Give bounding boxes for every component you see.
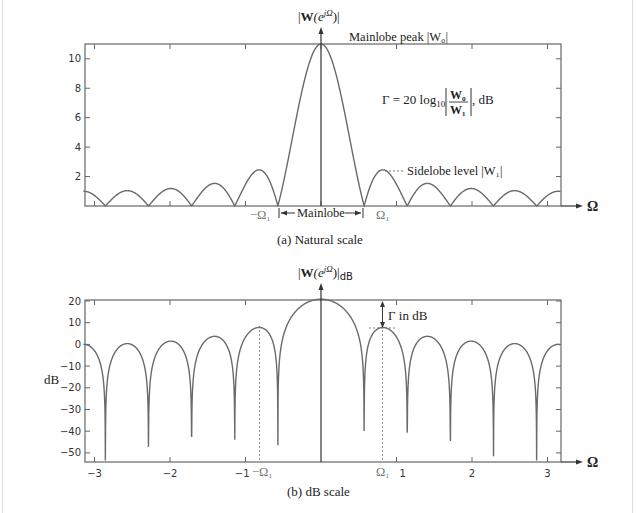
tick-label: 10 (68, 317, 81, 328)
db-axis-label: dB (44, 372, 60, 387)
tick-label: 2 (469, 468, 475, 479)
arrow-right-icon (355, 211, 361, 216)
tick-label: 10 (68, 53, 81, 64)
plot-b-ticks: 20100−10−20−30−40−50−3−2−1123 (60, 296, 561, 480)
neg-omega1-label-a: −Ω₁ (250, 208, 271, 222)
tick-label: −1 (235, 468, 250, 479)
arrow-up-icon (380, 301, 385, 307)
plot-a-frame (85, 44, 561, 206)
tick-label: 4 (75, 142, 81, 153)
mainlobe-label: Mainlobe (297, 206, 345, 220)
tick-label: 1 (400, 468, 406, 479)
arrow-up-icon (319, 27, 324, 34)
svg-text:W₀: W₀ (450, 88, 466, 102)
plot-a-curve (83, 44, 560, 206)
plot-b-frame (85, 300, 561, 462)
tick-label: −40 (60, 426, 81, 437)
plot-a-ticks: 108642 (68, 44, 561, 206)
tick-label: −20 (60, 382, 81, 393)
arrow-right-icon (576, 204, 583, 209)
arrow-right-icon (576, 460, 583, 465)
tick-label: 6 (75, 112, 81, 123)
tick-label: 3 (544, 468, 550, 479)
tick-label: −30 (60, 404, 81, 415)
neg-omega1-label-b: −Ω₁ (252, 465, 273, 479)
tick-label: 2 (75, 171, 81, 182)
sidelobe-level-label: Sidelobe level |W₁| (407, 164, 502, 178)
plot-b-curve (83, 299, 560, 460)
svg-text:, dB: , dB (472, 92, 494, 107)
pos-omega1-label-a: Ω₁ (376, 208, 390, 222)
plot-b-omega-label: Ω (587, 455, 598, 470)
caption-db-scale: (b) dB scale (287, 484, 350, 499)
tick-label: −3 (87, 468, 102, 479)
tick-label: −50 (60, 447, 81, 458)
svg-text:Γ = 20 log10: Γ = 20 log10 (382, 92, 446, 109)
tick-label: −2 (163, 468, 178, 479)
plot-a-omega-label: Ω (587, 199, 598, 214)
gamma-formula: Γ = 20 log10 W₀ W₁ , dB (382, 88, 494, 117)
plot-natural-scale: 108642 Ω |W(ejΩ)| Mainlobe peak |W₀| Γ =… (68, 8, 598, 247)
caption-natural-scale: (a) Natural scale (277, 232, 363, 247)
arrow-left-icon (281, 211, 287, 216)
plot-db-scale: 20100−10−20−30−40−50−3−2−1123 Ω |W(ejΩ)|… (44, 264, 598, 499)
tick-label: −10 (60, 361, 81, 372)
svg-text:W₁: W₁ (450, 103, 466, 117)
tick-label: 0 (75, 339, 81, 350)
tick-label: 20 (68, 296, 81, 307)
tick-label: 8 (75, 83, 81, 94)
arrow-up-icon (319, 283, 324, 290)
plot-a-top-label: |W(ejΩ)| (298, 8, 340, 24)
plot-b-top-label: |W(ejΩ)|dB (298, 264, 353, 282)
figure: 108642 Ω |W(ejΩ)| Mainlobe peak |W₀| Γ =… (0, 0, 636, 513)
mainlobe-peak-label: Mainlobe peak |W₀| (349, 30, 448, 44)
pos-omega1-label-b: Ω₁ (376, 465, 390, 479)
gamma-in-db-label: Γ in dB (388, 308, 428, 323)
